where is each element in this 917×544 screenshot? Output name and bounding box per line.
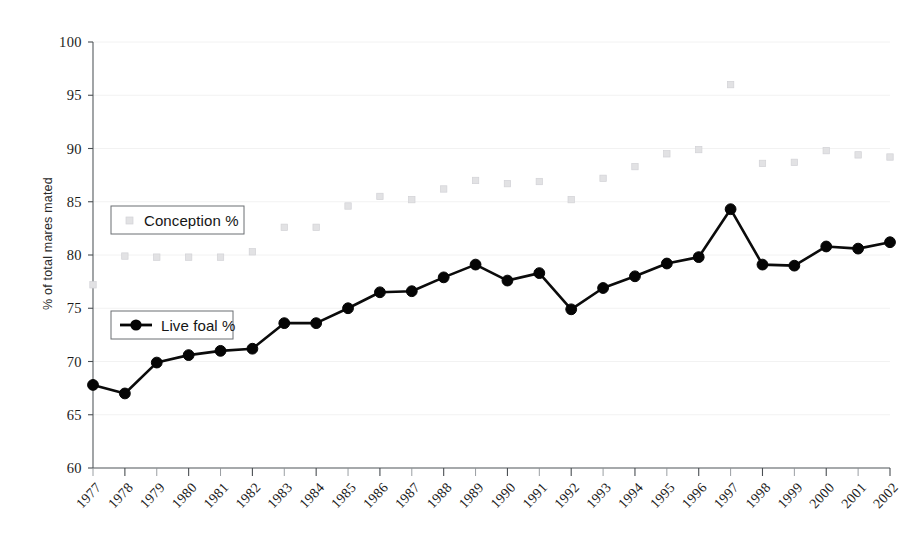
- x-tick-label: 1978: [105, 480, 136, 512]
- live-foal-data-point: [88, 380, 99, 391]
- live-foal-data-point: [375, 287, 386, 298]
- live-foal-data-point: [406, 286, 417, 297]
- conception-data-point: [377, 193, 383, 199]
- y-tick-label: 60: [67, 460, 82, 476]
- live-foal-data-point: [821, 241, 832, 252]
- live-foal-data-point: [183, 350, 194, 361]
- conception-data-point: [600, 175, 606, 181]
- live-foal-data-point: [343, 303, 354, 314]
- gridlines: [93, 42, 890, 468]
- series-conception: [90, 81, 893, 288]
- live-foal-data-point: [725, 204, 736, 215]
- conception-data-point: [887, 154, 893, 160]
- conception-data-point: [281, 224, 287, 230]
- live-foal-data-point: [119, 388, 130, 399]
- x-tick-label: 1990: [488, 480, 519, 512]
- live-foal-data-point: [757, 259, 768, 270]
- x-tick-label: 1988: [424, 480, 455, 512]
- y-axis-title: % of total mares mated: [41, 177, 55, 310]
- x-tick-label: 1996: [679, 480, 710, 512]
- live-foal-data-point: [598, 283, 609, 294]
- x-tick-label: 1987: [392, 480, 423, 512]
- live-foal-data-point: [470, 259, 481, 270]
- live-foal-marker-icon: [130, 319, 141, 330]
- x-tick-label: 1981: [201, 480, 232, 512]
- conception-data-point: [345, 203, 351, 209]
- x-tick-label: 1997: [711, 480, 742, 512]
- live-foal-data-point: [279, 318, 290, 329]
- y-tick-label: 90: [67, 141, 82, 157]
- x-tick-label: 1998: [743, 480, 774, 512]
- y-axis: 6065707580859095100: [59, 34, 93, 476]
- live-foal-data-point: [789, 260, 800, 271]
- x-tick-label: 1984: [296, 480, 327, 512]
- conception-data-point: [536, 178, 542, 184]
- y-tick-label: 85: [67, 194, 82, 210]
- conception-data-point: [217, 254, 223, 260]
- x-tick-label: 2000: [807, 480, 838, 512]
- live-foal-data-point: [693, 252, 704, 263]
- conception-data-point: [759, 160, 765, 166]
- live-foal-data-point: [151, 357, 162, 368]
- live-foal-line: [93, 209, 890, 393]
- live-foal-data-point: [630, 271, 641, 282]
- x-tick-label: 1979: [137, 480, 168, 512]
- x-tick-label: 1991: [520, 480, 551, 512]
- x-tick-label: 1983: [265, 480, 296, 512]
- x-tick-label: 1994: [615, 480, 646, 512]
- conception-data-point: [409, 196, 415, 202]
- x-tick-label: 1980: [169, 480, 200, 512]
- chart-container: 6065707580859095100 19771978197919801981…: [0, 0, 917, 544]
- live-foal-data-point: [885, 237, 896, 248]
- legend-item-conception[interactable]: Conception %: [111, 206, 244, 234]
- x-tick-label: 1995: [647, 480, 678, 512]
- live-foal-data-point: [438, 272, 449, 283]
- x-tick-label: 1989: [456, 480, 487, 512]
- y-tick-label: 65: [67, 407, 82, 423]
- live-foal-data-point: [566, 304, 577, 315]
- y-tick-label: 75: [67, 300, 82, 316]
- live-foal-data-point: [247, 343, 258, 354]
- x-tick-label: 1977: [73, 480, 104, 512]
- x-axis: 1977197819791980198119821983198419851986…: [73, 468, 901, 511]
- conception-data-point: [472, 177, 478, 183]
- live-foal-data-point: [215, 345, 226, 356]
- x-tick-label: 1999: [775, 480, 806, 512]
- conception-data-point: [855, 152, 861, 158]
- conception-data-point: [696, 146, 702, 152]
- conception-data-point: [90, 282, 96, 288]
- x-tick-label: 2002: [870, 480, 901, 512]
- conception-data-point: [185, 254, 191, 260]
- conception-data-point: [249, 249, 255, 255]
- conception-data-point: [823, 147, 829, 153]
- live-foal-data-point: [661, 258, 672, 269]
- legend-item-live-foal[interactable]: Live foal %: [111, 311, 235, 339]
- live-foal-data-point: [502, 275, 513, 286]
- x-tick-label: 2001: [838, 480, 869, 512]
- line-chart: 6065707580859095100 19771978197919801981…: [0, 0, 917, 544]
- x-tick-label: 1986: [360, 480, 391, 512]
- conception-marker-icon: [126, 217, 133, 224]
- live-foal-data-point: [534, 268, 545, 279]
- y-tick-label: 80: [67, 247, 82, 263]
- y-tick-label: 70: [67, 354, 82, 370]
- conception-data-point: [440, 186, 446, 192]
- x-tick-label: 1985: [328, 480, 359, 512]
- y-tick-label: 100: [59, 34, 82, 50]
- conception-data-point: [791, 159, 797, 165]
- x-tick-label: 1982: [233, 480, 264, 512]
- legend-live-foal-label: Live foal %: [161, 317, 235, 334]
- x-tick-label: 1992: [552, 480, 583, 512]
- x-tick-label: 1993: [583, 480, 614, 512]
- legend-conception-label: Conception %: [144, 212, 239, 229]
- conception-data-point: [154, 254, 160, 260]
- conception-data-point: [632, 163, 638, 169]
- conception-data-point: [504, 180, 510, 186]
- live-foal-data-point: [853, 243, 864, 254]
- conception-data-point: [727, 81, 733, 87]
- conception-data-point: [122, 253, 128, 259]
- conception-data-point: [664, 151, 670, 157]
- live-foal-data-point: [311, 318, 322, 329]
- conception-data-point: [313, 224, 319, 230]
- y-tick-label: 95: [67, 87, 82, 103]
